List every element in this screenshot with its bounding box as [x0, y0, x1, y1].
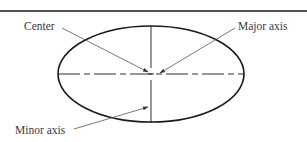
major-axis-label: Major axis: [238, 21, 288, 33]
major-axis-leader-arrow: [160, 28, 235, 73]
ellipse-diagram: Center Major axis Minor axis: [0, 0, 307, 142]
minor-axis-leader-arrow: [74, 107, 148, 129]
center-label: Center: [24, 21, 55, 33]
center-leader-arrow: [62, 28, 148, 72]
minor-axis-label: Minor axis: [15, 125, 65, 137]
